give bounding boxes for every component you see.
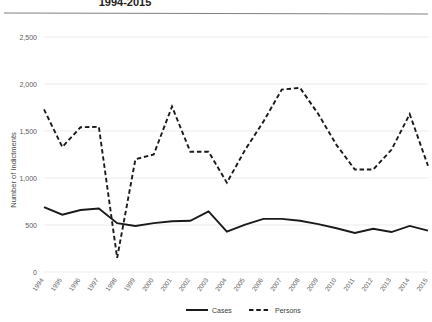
y-axis-label: Number of Indictments (9, 132, 18, 208)
chart-title: 1994-2015 (99, 0, 152, 8)
legend-label-cases: Cases (212, 307, 232, 314)
y-tick-label: 2,000 (19, 81, 37, 88)
y-tick-label: 1,500 (19, 128, 37, 135)
y-tick-label: 0 (33, 269, 37, 276)
indictments-line-chart: 1994-2015 Number of Indictments 05001,00… (0, 0, 432, 322)
chart-background (0, 0, 432, 322)
y-tick-label: 2,500 (19, 34, 37, 41)
y-tick-label: 500 (25, 222, 37, 229)
legend-label-persons: Persons (275, 307, 301, 314)
y-tick-label: 1,000 (19, 175, 37, 182)
